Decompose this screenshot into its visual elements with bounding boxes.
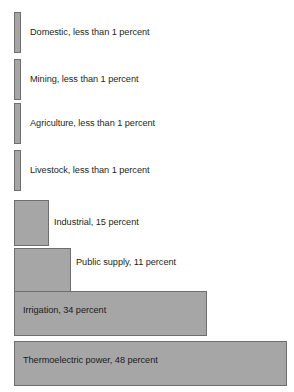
bar-label-agriculture: Agriculture, less than 1 percent	[30, 119, 155, 128]
bar-agriculture	[14, 103, 21, 144]
bar-label-domestic: Domestic, less than 1 percent	[30, 28, 150, 37]
water-use-bar-chart: Domestic, less than 1 percent Mining, le…	[0, 0, 294, 392]
bar-public-supply	[14, 248, 71, 293]
bar-domestic	[14, 12, 21, 53]
bar-label-industrial: Industrial, 15 percent	[54, 218, 139, 227]
bar-livestock	[14, 150, 21, 191]
bar-label-thermoelectric-power: Thermoelectric power, 48 percent	[23, 356, 158, 365]
bar-label-irrigation: Irrigation, 34 percent	[23, 306, 106, 315]
bar-label-mining: Mining, less than 1 percent	[30, 75, 138, 84]
bar-label-livestock: Livestock, less than 1 percent	[30, 166, 150, 175]
bar-industrial	[14, 200, 49, 246]
bar-mining	[14, 59, 21, 100]
bar-label-public-supply: Public supply, 11 percent	[76, 258, 176, 267]
